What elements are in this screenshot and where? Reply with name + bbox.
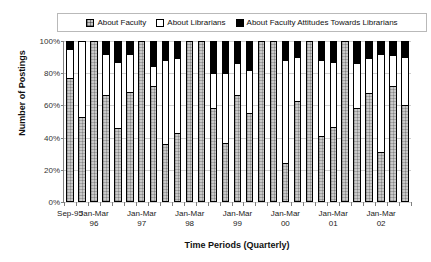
bar-segment-attitudes: [331, 42, 336, 63]
bar-segment-librarians: [378, 55, 383, 154]
bar-segment-faculty: [91, 42, 96, 201]
bar-segment-faculty: [319, 137, 324, 201]
bar-segment-librarians: [67, 50, 72, 79]
bar-column: [270, 41, 277, 202]
bar-segment-faculty: [259, 42, 264, 201]
x-tick-mark: [291, 202, 292, 206]
x-tick-mark: [160, 202, 161, 206]
x-tick-mark: [267, 202, 268, 206]
bar-segment-attitudes: [151, 42, 156, 67]
x-tick-mark: [399, 202, 400, 206]
x-tick-label: Jan-Mar00: [271, 209, 300, 229]
bar-segment-attitudes: [235, 42, 240, 64]
x-tick-label: Jan-Mar96: [79, 209, 108, 229]
x-tick-mark: [232, 202, 233, 206]
bar-segment-librarians: [295, 58, 300, 103]
bar-segment-librarians: [331, 63, 336, 128]
bar-segment-attitudes: [354, 42, 359, 64]
bar-segment-librarians: [115, 63, 120, 130]
y-axis-title: Number of Postings: [17, 38, 27, 148]
x-tick-label-line1: Jan-Mar: [223, 209, 252, 219]
x-tick-label-line1: Jan-Mar: [271, 209, 300, 219]
x-tick-mark: [315, 202, 316, 206]
bar-segment-faculty: [103, 96, 108, 201]
bar-segment-librarians: [354, 64, 359, 109]
bar-segment-attitudes: [127, 42, 132, 55]
bar-column: [318, 41, 325, 202]
x-tick-mark: [112, 202, 113, 206]
bar-segment-attitudes: [175, 42, 180, 59]
x-tick-mark: [351, 202, 352, 206]
bar-column: [198, 41, 205, 202]
bar-segment-attitudes: [163, 42, 168, 61]
bar-column: [162, 41, 169, 202]
bar-column: [174, 41, 181, 202]
bar-segment-librarians: [247, 71, 252, 114]
bar-column: [341, 41, 348, 202]
bar-segment-attitudes: [67, 42, 72, 50]
legend-item-about-librarians: About Librarians: [156, 18, 225, 27]
bar-segment-attitudes: [402, 42, 407, 58]
bar-segment-attitudes: [103, 42, 108, 55]
bars-layer: [64, 41, 411, 202]
bar-segment-attitudes: [390, 42, 395, 56]
x-tick-mark: [196, 202, 197, 206]
legend-label-about-faculty-attitudes: About Faculty Attitudes Towards Libraria…: [247, 18, 398, 27]
bar-segment-attitudes: [211, 42, 216, 74]
x-tick-label-line2: 96: [79, 219, 108, 229]
y-tick-label: 60%: [44, 101, 60, 110]
bar-segment-faculty: [115, 129, 120, 201]
gridline: [64, 202, 411, 203]
bar-column: [353, 41, 360, 202]
bar-segment-faculty: [283, 164, 288, 201]
bar-column: [66, 41, 73, 202]
x-tick-label-line1: Jan-Mar: [319, 209, 348, 219]
bar-segment-attitudes: [319, 42, 324, 61]
x-tick-mark: [184, 202, 185, 206]
bar-segment-faculty: [402, 106, 407, 201]
bar-segment-attitudes: [115, 42, 120, 63]
bar-segment-faculty: [151, 87, 156, 201]
bar-segment-faculty: [163, 145, 168, 201]
x-tick-mark: [88, 202, 89, 206]
bar-segment-librarians: [319, 61, 324, 137]
x-tick-label: Jan-Mar99: [223, 209, 252, 229]
bar-column: [102, 41, 109, 202]
bar-column: [330, 41, 337, 202]
x-tick-mark: [279, 202, 280, 206]
x-tick-mark: [303, 202, 304, 206]
bar-segment-faculty: [271, 42, 276, 201]
bar-segment-librarians: [127, 55, 132, 93]
x-tick-mark: [327, 202, 328, 206]
bar-segment-librarians: [235, 64, 240, 96]
bar-segment-faculty: [187, 42, 192, 201]
bar-column: [90, 41, 97, 202]
x-tick-label: Jan-Mar98: [175, 209, 204, 229]
bar-segment-faculty: [127, 93, 132, 201]
bar-column: [210, 41, 217, 202]
bar-segment-faculty: [247, 114, 252, 201]
x-tick-label-line2: 97: [127, 219, 156, 229]
bar-column: [258, 41, 265, 202]
x-tick-label-line2: 98: [175, 219, 204, 229]
chart-legend: About Faculty About Librarians About Fac…: [57, 13, 427, 32]
bar-column: [138, 41, 145, 202]
x-tick-label-line2: 99: [223, 219, 252, 229]
bar-segment-attitudes: [223, 42, 228, 74]
bar-segment-librarians: [390, 56, 395, 86]
y-tick-label: 100%: [40, 37, 60, 46]
legend-item-about-faculty-attitudes: About Faculty Attitudes Towards Libraria…: [236, 18, 398, 27]
bar-segment-librarians: [175, 59, 180, 134]
x-tick-mark: [220, 202, 221, 206]
bar-column: [78, 41, 85, 202]
x-tick-label-line1: Jan-Mar: [175, 209, 204, 219]
x-tick-mark: [148, 202, 149, 206]
bar-segment-librarians: [283, 61, 288, 164]
bar-segment-faculty: [342, 42, 347, 201]
legend-label-about-faculty: About Faculty: [97, 18, 146, 27]
y-tick-label: 20%: [44, 165, 60, 174]
faculty-swatch-icon: [86, 19, 94, 27]
bar-segment-faculty: [139, 42, 144, 201]
x-tick-mark: [339, 202, 340, 206]
bar-column: [389, 41, 396, 202]
